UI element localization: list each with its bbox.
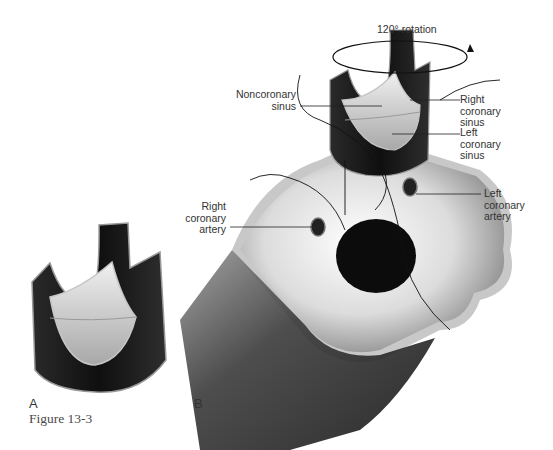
- figure-caption: Figure 13-3: [29, 411, 92, 427]
- label-noncoronary-sinus: Noncoronary sinus: [214, 89, 296, 112]
- right-coronary-ostium: [311, 218, 325, 236]
- panel-label-b: B: [194, 396, 203, 411]
- panel-label-a: A: [29, 396, 38, 411]
- label-rotation: 120° rotation: [377, 24, 437, 36]
- aortic-root-illustration: [0, 0, 553, 450]
- label-right-coronary-sinus: Right coronary sinus: [460, 94, 501, 129]
- label-left-coronary-artery: Left coronary artery: [484, 188, 525, 223]
- label-right-coronary-artery: Right coronary artery: [170, 201, 226, 236]
- label-left-coronary-sinus: Left coronary sinus: [460, 127, 501, 162]
- valve-cylinder-a: [32, 223, 166, 392]
- valve-cylinder-b: [330, 30, 430, 176]
- aortic-root-b: [180, 144, 512, 450]
- left-coronary-ostium: [403, 178, 417, 196]
